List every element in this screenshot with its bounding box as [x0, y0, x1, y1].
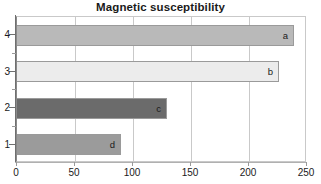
- x-tick-label-0: 0: [13, 167, 19, 178]
- x-tick-50: [74, 162, 75, 166]
- x-tick-200: [248, 162, 249, 166]
- y-tick-1: [9, 144, 16, 145]
- y-tick-label-3: 3: [0, 66, 10, 77]
- x-tick-label-150: 150: [182, 167, 199, 178]
- plot-area: abcd: [16, 16, 306, 162]
- bar-value-label: a: [283, 31, 293, 41]
- x-tick-label-100: 100: [124, 167, 141, 178]
- magnetic-susceptibility-bar-chart: Magnetic susceptibility abcd 4321 050100…: [0, 0, 321, 184]
- y-tick-minor: [12, 89, 16, 90]
- x-tick-label-200: 200: [240, 167, 257, 178]
- y-tick-label-2: 2: [0, 102, 10, 113]
- chart-title: Magnetic susceptibility: [0, 1, 321, 13]
- bar-value-label: c: [156, 104, 166, 114]
- y-tick-3: [9, 71, 16, 72]
- y-tick-4: [9, 34, 16, 35]
- x-tick-label-250: 250: [298, 167, 315, 178]
- x-tick-label-50: 50: [68, 167, 79, 178]
- y-tick-minor: [12, 126, 16, 127]
- y-tick-label-1: 1: [0, 139, 10, 150]
- y-tick-2: [9, 107, 16, 108]
- x-tick-0: [16, 162, 17, 166]
- y-tick-label-4: 4: [0, 29, 10, 40]
- bar-b: b: [17, 61, 279, 82]
- x-tick-250: [306, 162, 307, 166]
- bar-d: d: [17, 134, 121, 155]
- x-tick-100: [132, 162, 133, 166]
- bar-value-label: b: [268, 67, 278, 77]
- bar-value-label: d: [110, 140, 120, 150]
- bar-c: c: [17, 98, 167, 119]
- x-axis-line: [15, 162, 307, 163]
- bar-a: a: [17, 25, 294, 46]
- x-tick-150: [190, 162, 191, 166]
- y-tick-minor: [12, 53, 16, 54]
